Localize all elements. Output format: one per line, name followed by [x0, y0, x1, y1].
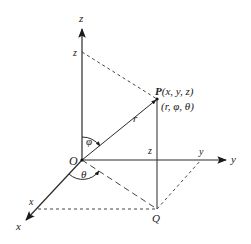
point-p-cartesian: (x, y, z)	[162, 85, 194, 98]
z-axis-label: z	[78, 12, 84, 24]
point-p-dot	[155, 97, 158, 100]
phi-label: φ	[86, 135, 92, 147]
height-label: z	[147, 145, 152, 156]
radius-label: r	[133, 112, 138, 124]
z-tick-label: z	[72, 47, 77, 58]
x-tick-label: x	[28, 196, 34, 207]
point-p-spherical: (r, φ, θ)	[161, 100, 194, 113]
x-axis-label: x	[15, 220, 21, 232]
radius-line	[82, 100, 156, 160]
origin-dot	[80, 158, 83, 161]
y-axis-label: y	[230, 153, 236, 165]
oq-projection-dashed	[82, 160, 157, 209]
x-axis	[26, 160, 82, 220]
point-q-label: Q	[152, 212, 160, 224]
theta-label: θ	[81, 168, 87, 180]
origin-label: O	[69, 154, 78, 168]
y-projection-dashed	[157, 160, 201, 209]
y-tick-label: y	[198, 146, 204, 157]
z-projection-dashed	[82, 52, 157, 99]
point-p-label: P(x, y, z)	[155, 85, 194, 98]
spherical-coordinates-diagram: z z y y x x O P(x, y, z) (r, φ, θ) Q r z…	[0, 0, 251, 244]
